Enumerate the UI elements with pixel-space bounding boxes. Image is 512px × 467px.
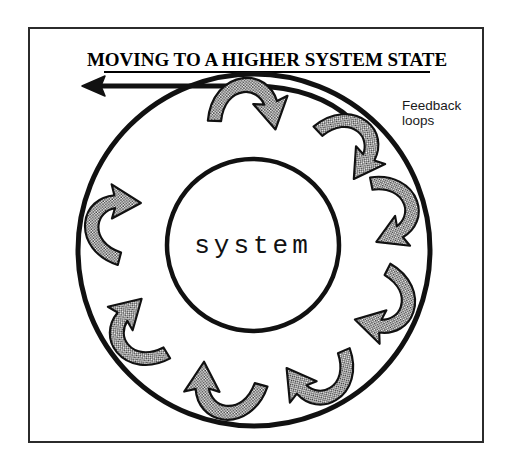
system-feedback-loop-diagram: MOVING TO A HIGHER SYSTEM STATE system F…: [0, 0, 512, 467]
feedback-arrow-4: [350, 259, 425, 351]
feedback-arrow-7: [91, 287, 183, 382]
page-title: MOVING TO A HIGHER SYSTEM STATE: [87, 49, 447, 70]
feedback-loops-label-line-2: loops: [402, 113, 435, 128]
feedback-loops-label: Feedback loops: [402, 98, 462, 128]
system-label: system: [194, 231, 312, 261]
feedback-arrow-2: [303, 98, 399, 189]
feedback-arrow-3: [355, 165, 431, 256]
feedback-arrow-8: [81, 182, 142, 267]
feedback-arrow-5: [273, 334, 369, 421]
diagram-canvas: MOVING TO A HIGHER SYSTEM STATE system F…: [0, 0, 512, 467]
feedback-arrow-1: [203, 73, 291, 138]
feedback-loops-label-line-1: Feedback: [402, 98, 462, 113]
